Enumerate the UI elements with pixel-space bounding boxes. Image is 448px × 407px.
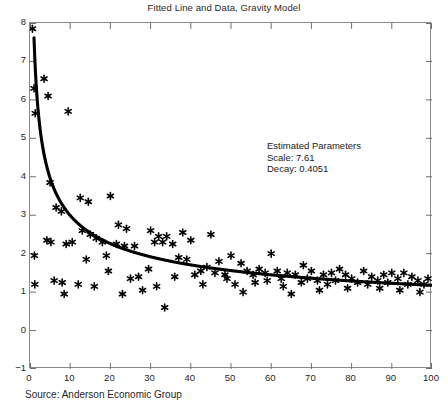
data-point <box>45 93 51 100</box>
data-point <box>63 241 69 248</box>
data-point <box>115 221 121 228</box>
data-point <box>280 283 286 290</box>
data-point <box>228 252 234 259</box>
annotation-heading: Estimated Parameters <box>267 140 361 152</box>
data-point <box>298 279 304 286</box>
data-point <box>300 262 306 269</box>
chart-figure: Fitted Line and Data, Gravity Model −101… <box>0 0 448 407</box>
data-point <box>308 267 314 274</box>
y-tick-marks <box>30 24 432 369</box>
y-tick-label: 6 <box>4 94 26 104</box>
data-point <box>409 273 415 280</box>
x-tick-marks <box>31 23 432 369</box>
data-point <box>59 279 65 286</box>
x-tick-label: 90 <box>373 373 409 383</box>
data-point <box>164 233 170 240</box>
data-point <box>41 75 47 82</box>
data-point <box>395 275 401 282</box>
data-point <box>264 277 270 284</box>
data-point <box>425 275 431 282</box>
annotation-scale: Scale: 7.61 <box>267 152 361 164</box>
data-point <box>361 267 367 274</box>
data-point <box>316 287 322 294</box>
data-point <box>216 258 222 265</box>
data-point <box>208 231 214 238</box>
data-point <box>146 266 152 273</box>
data-point <box>274 267 280 274</box>
plot-area <box>29 22 431 368</box>
data-point <box>127 275 133 282</box>
data-point <box>170 241 176 248</box>
data-point <box>107 193 113 200</box>
data-point <box>65 108 71 115</box>
data-point <box>212 269 218 276</box>
scatter-series <box>30 25 431 311</box>
data-point <box>160 239 166 246</box>
data-point <box>83 256 89 263</box>
data-point <box>119 291 125 298</box>
data-point <box>337 266 343 273</box>
data-point <box>131 242 137 249</box>
y-tick-label: 7 <box>4 56 26 66</box>
data-point <box>176 254 182 261</box>
data-point <box>103 252 109 259</box>
data-point <box>256 266 262 273</box>
data-point <box>51 277 57 284</box>
x-tick-label: 40 <box>172 373 208 383</box>
y-tick-label: 8 <box>4 17 26 27</box>
data-point <box>192 271 198 278</box>
data-point <box>238 260 244 267</box>
data-point <box>417 289 423 296</box>
data-point <box>288 291 294 298</box>
plot-canvas <box>30 23 432 369</box>
y-tick-label: 0 <box>4 325 26 335</box>
y-axis-tick-labels: −1012345678 <box>0 22 26 368</box>
data-point <box>136 273 142 280</box>
data-point <box>320 271 326 278</box>
data-point <box>200 281 206 288</box>
data-point <box>328 269 334 276</box>
fitted-line <box>34 38 432 286</box>
x-tick-label: 0 <box>11 373 47 383</box>
y-tick-label: 3 <box>4 209 26 219</box>
data-point <box>32 281 38 288</box>
data-point <box>324 281 330 288</box>
data-point <box>105 267 111 274</box>
y-tick-label: −1 <box>4 363 26 373</box>
data-point <box>172 273 178 280</box>
y-tick-label: 4 <box>4 171 26 181</box>
data-point <box>198 267 204 274</box>
y-tick-label: 2 <box>4 248 26 258</box>
data-point <box>77 194 83 201</box>
data-point <box>343 271 349 278</box>
data-point <box>180 229 186 236</box>
x-tick-label: 10 <box>51 373 87 383</box>
x-axis-tick-labels: 0102030405060708090100 <box>29 373 431 387</box>
data-point <box>377 285 383 292</box>
data-point <box>240 289 246 296</box>
data-point <box>75 281 81 288</box>
data-point <box>381 271 387 278</box>
data-point <box>252 279 258 286</box>
data-point <box>389 269 395 276</box>
data-point <box>369 273 375 280</box>
data-point <box>162 304 168 311</box>
data-point <box>184 256 190 263</box>
x-tick-label: 20 <box>91 373 127 383</box>
data-point <box>123 225 129 232</box>
x-tick-label: 100 <box>413 373 448 383</box>
data-point <box>85 198 91 205</box>
data-point <box>232 281 238 288</box>
x-tick-label: 70 <box>292 373 328 383</box>
estimated-parameters-annotation: Estimated Parameters Scale: 7.61 Decay: … <box>267 140 361 175</box>
data-point <box>91 283 97 290</box>
data-point <box>401 269 407 276</box>
data-point <box>188 237 194 244</box>
x-tick-label: 50 <box>212 373 248 383</box>
data-point <box>397 287 403 294</box>
x-tick-label: 30 <box>132 373 168 383</box>
data-point <box>345 285 351 292</box>
y-tick-label: 5 <box>4 133 26 143</box>
y-tick-label: 1 <box>4 286 26 296</box>
x-tick-label: 80 <box>333 373 369 383</box>
